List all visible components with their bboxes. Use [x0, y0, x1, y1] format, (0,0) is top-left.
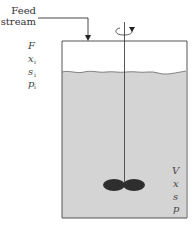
inlet-variables: F x i s i p i: [27, 40, 36, 90]
inlet-var-s: s: [28, 66, 33, 77]
impeller-blade-right: [123, 179, 145, 191]
inlet-var-F: F: [27, 40, 36, 51]
feed-label-line1: Feed: [11, 5, 36, 16]
liquid-volume: [62, 71, 186, 218]
rotation-arrowhead-icon: [129, 27, 135, 32]
fed-batch-reactor-diagram: Feed stream F x i s i p i V x s p: [0, 0, 196, 226]
rotation-arrow-icon: [116, 28, 132, 35]
reactor-var-s: s: [173, 191, 178, 202]
inlet-var-p-subscript: i: [34, 83, 36, 90]
reactor-var-x: x: [173, 178, 179, 189]
inlet-var-x-subscript: i: [34, 58, 36, 65]
feed-line: [38, 18, 88, 36]
reactor-var-p: p: [173, 203, 180, 214]
inlet-var-s-subscript: i: [34, 71, 36, 78]
impeller-blade-left: [103, 179, 125, 191]
feed-label-line2: stream: [1, 16, 37, 27]
feed-arrow-icon: [85, 35, 91, 41]
